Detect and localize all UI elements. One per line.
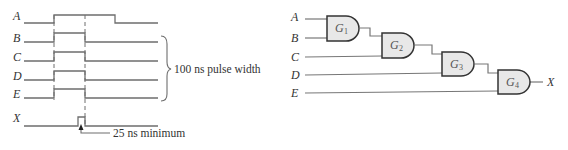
svg-text:1: 1 <box>344 27 348 36</box>
waveform-e <box>24 89 158 98</box>
glitch-pointer-line <box>81 128 110 133</box>
waveform-x <box>24 117 158 126</box>
signal-label-a: A <box>12 9 21 23</box>
signal-label-e: E <box>12 87 21 101</box>
arrow-up-icon <box>79 124 84 130</box>
input-label-c: C <box>291 50 300 64</box>
and-gate-g4: G 4 <box>498 70 530 94</box>
svg-text:4: 4 <box>515 81 519 90</box>
brace-icon <box>161 36 171 101</box>
svg-text:G: G <box>450 57 459 71</box>
signal-label-d: D <box>12 69 22 83</box>
signal-label-b: B <box>13 31 21 45</box>
input-label-e: E <box>290 86 299 100</box>
diagram-stage: A B C D E X 100 ns pulse width 25 ns min… <box>0 0 568 150</box>
timing-diagram: A B C D E X 100 ns pulse width 25 ns min… <box>12 9 261 139</box>
waveform-d <box>24 71 158 80</box>
svg-text:G: G <box>390 38 399 52</box>
and-gate-g2: G 2 <box>382 33 414 58</box>
input-label-b: B <box>291 31 299 45</box>
wire-g2-g3 <box>415 45 442 54</box>
wire-d <box>305 73 442 75</box>
svg-text:3: 3 <box>459 63 463 72</box>
glitch-annotation: 25 ns minimum <box>113 127 185 139</box>
wire-e <box>305 91 498 93</box>
svg-text:G: G <box>506 75 515 89</box>
wire-g1-g2 <box>360 28 382 36</box>
pulse-width-annotation: 100 ns pulse width <box>174 63 261 76</box>
waveform-a <box>24 15 158 23</box>
svg-text:G: G <box>335 21 344 35</box>
signal-label-c: C <box>13 50 22 64</box>
waveform-c <box>24 52 158 61</box>
signal-label-x: X <box>12 111 21 125</box>
output-label-x: X <box>546 75 555 89</box>
svg-text:2: 2 <box>399 44 403 53</box>
and-gate-g1: G 1 <box>327 16 359 41</box>
input-label-a: A <box>290 10 299 24</box>
waveform-b <box>24 33 158 42</box>
and-gate-g3: G 3 <box>442 52 474 76</box>
logic-circuit: A B C D E G 1 G 2 <box>290 10 555 100</box>
wire-g3-g4 <box>475 64 498 73</box>
wire-c <box>305 56 382 57</box>
input-label-d: D <box>290 68 300 82</box>
